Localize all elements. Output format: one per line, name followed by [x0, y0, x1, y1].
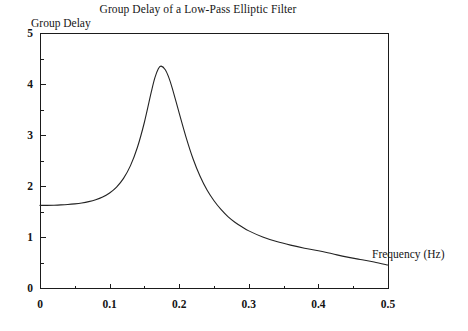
x-tick-label: 0.2	[159, 298, 199, 310]
x-tick-label: 0.1	[90, 298, 130, 310]
y-tick-label: 4	[7, 78, 33, 90]
group-delay-curve	[40, 66, 388, 265]
axis-frame-path	[41, 34, 389, 289]
y-tick-label: 3	[7, 129, 33, 141]
x-tick-label: 0.5	[368, 298, 408, 310]
plot-area	[0, 0, 468, 331]
y-tick-label: 0	[7, 282, 33, 294]
x-tick-label: 0.3	[229, 298, 269, 310]
y-tick-label: 5	[7, 27, 33, 39]
y-tick-label: 1	[7, 231, 33, 243]
x-tick-label: 0	[20, 298, 60, 310]
axes-frame	[41, 34, 389, 289]
x-tick-label: 0.4	[298, 298, 338, 310]
y-tick-label: 2	[7, 180, 33, 192]
chart-figure: Group Delay of a Low-Pass Elliptic Filte…	[0, 0, 468, 331]
